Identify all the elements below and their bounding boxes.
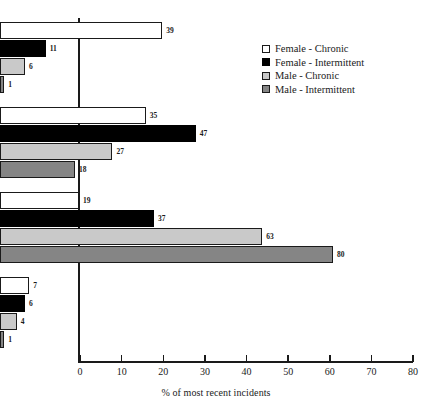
bar-value-label: 63 (266, 233, 274, 241)
bar-row: 47 (0, 125, 333, 142)
bar (0, 22, 162, 39)
bar-value-label: 6 (29, 300, 33, 308)
bar-group: Unsure7641 (0, 277, 333, 349)
bar-chart: 01020304050607080 % of most recent incid… (0, 0, 432, 409)
bar-value-label: 39 (166, 27, 174, 35)
bar (0, 143, 112, 160)
legend-item-label: Male - Chronic (275, 69, 339, 83)
bar (0, 76, 4, 93)
legend-item-label: Female - Intermittent (275, 56, 364, 70)
x-axis-tick-label: 50 (283, 366, 293, 378)
bar-value-label: 7 (33, 282, 37, 290)
bar (0, 107, 146, 124)
x-axis-tick (329, 355, 331, 362)
x-axis-tick (79, 355, 81, 362)
bar (0, 161, 75, 178)
x-axis-tick (287, 355, 289, 362)
bar-value-label: 47 (200, 130, 208, 138)
x-axis-tick (204, 355, 206, 362)
x-axis-tick (163, 355, 165, 362)
bar-value-label: 4 (21, 318, 25, 326)
x-axis-tick-label: 60 (325, 366, 335, 378)
bar (0, 192, 79, 209)
legend-swatch-icon (262, 45, 270, 53)
bar (0, 313, 17, 330)
legend-item-label: Female - Chronic (275, 42, 348, 56)
bar-row: 19 (0, 192, 333, 209)
x-axis-tick (246, 355, 248, 362)
bar-group: Wrong butnot a crime35472718 (0, 107, 333, 179)
bar-value-label: 19 (83, 197, 91, 205)
bar (0, 228, 262, 245)
x-axis-tick-label: 10 (117, 366, 127, 378)
bar-row: 4 (0, 313, 333, 330)
x-axis-tick (121, 355, 123, 362)
bar-value-label: 18 (79, 166, 87, 174)
bar (0, 58, 25, 75)
x-axis-tick-label: 40 (242, 366, 252, 378)
bar-row: 80 (0, 246, 333, 263)
bar-value-label: 6 (29, 63, 33, 71)
bar-row: 63 (0, 228, 333, 245)
x-axis-tick-label: 30 (200, 366, 210, 378)
x-axis-tick-label: 70 (366, 366, 376, 378)
bar (0, 331, 4, 348)
bar-row: 37 (0, 210, 333, 227)
x-axis-tick (412, 355, 414, 362)
legend-swatch-icon (262, 85, 270, 93)
legend-item-female-chronic: Female - Chronic (262, 42, 364, 56)
bar-row: 35 (0, 107, 333, 124)
bar-row: 39 (0, 22, 333, 39)
legend-item-female-intermittent: Female - Intermittent (262, 56, 364, 70)
bar-row: 7 (0, 277, 333, 294)
bar-row: 1 (0, 331, 333, 348)
legend-swatch-icon (262, 58, 270, 66)
x-axis-tick (371, 355, 373, 362)
bar (0, 125, 196, 142)
bar (0, 40, 46, 57)
bar (0, 246, 333, 263)
legend: Female - Chronic Female - Intermittent M… (262, 42, 364, 96)
legend-swatch-icon (262, 72, 270, 80)
bar-value-label: 1 (8, 81, 12, 89)
bar-value-label: 35 (150, 112, 158, 120)
bar-group: Justsomethingthat happens19376380 (0, 192, 333, 264)
bar-row: 6 (0, 295, 333, 312)
bar-value-label: 80 (337, 251, 345, 259)
x-axis-tick-label: 20 (158, 366, 168, 378)
bar-value-label: 27 (116, 148, 124, 156)
legend-item-male-intermittent: Male - Intermittent (262, 83, 364, 97)
x-axis-tick-label: 0 (78, 366, 83, 378)
bar-row: 18 (0, 161, 333, 178)
legend-item-label: Male - Intermittent (275, 83, 355, 97)
bar (0, 295, 25, 312)
bar (0, 210, 154, 227)
bar-value-label: 11 (50, 45, 57, 53)
bar (0, 277, 29, 294)
bar-row: 27 (0, 143, 333, 160)
bar-value-label: 37 (158, 215, 166, 223)
bar-value-label: 1 (8, 336, 12, 344)
legend-item-male-chronic: Male - Chronic (262, 69, 364, 83)
x-axis-title: % of most recent incidents (0, 387, 432, 398)
x-axis-tick-label: 80 (408, 366, 418, 378)
